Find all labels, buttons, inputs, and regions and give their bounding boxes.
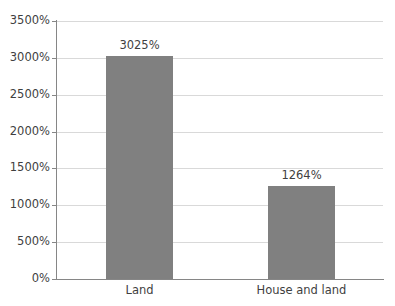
category-label-house-and-land: House and land [257, 285, 347, 297]
y-tick-label-5: 2500% [2, 89, 50, 101]
bar-land [106, 56, 173, 279]
x-axis-line [56, 279, 384, 280]
y-tick-label-3: 1500% [2, 163, 50, 175]
y-tick-label-4: 2000% [2, 126, 50, 138]
y-tick-label-2: 1000% [2, 200, 50, 212]
bar-chart: 0% 500% 1000% 1500% 2000% 2500% 3000% 35… [0, 0, 395, 306]
y-tick-label-6: 3000% [2, 52, 50, 64]
y-tick-label-0: 0% [2, 273, 50, 285]
bar-value-label-house-and-land: 1264% [281, 170, 321, 182]
y-tick-label-7: 3500% [2, 15, 50, 27]
bar-house-and-land [268, 186, 335, 279]
y-axis-tick-labels: 0% 500% 1000% 1500% 2000% 2500% 3000% 35… [0, 0, 50, 306]
plot-area [57, 21, 383, 279]
gridline-3500 [57, 21, 383, 22]
category-label-land: Land [125, 285, 153, 297]
y-axis-line [56, 20, 57, 280]
bar-value-label-land: 3025% [119, 40, 159, 52]
y-tick-label-1: 500% [2, 236, 50, 248]
